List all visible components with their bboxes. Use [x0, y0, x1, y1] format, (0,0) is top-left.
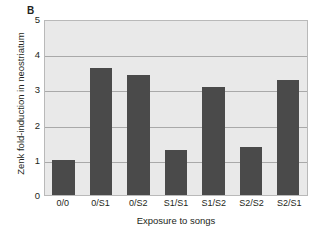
x-tick-label: S1/S1	[157, 198, 195, 209]
bar-slot	[195, 21, 232, 195]
bar	[127, 75, 149, 195]
bar	[90, 68, 112, 195]
x-tick-label: S2/S2	[233, 198, 271, 209]
bar-slot	[82, 21, 119, 195]
figure-panel-b: B Zenk fold-induction in neostriatum 012…	[0, 0, 324, 239]
bar	[52, 160, 74, 195]
y-tick-label: 4	[24, 50, 40, 60]
plot-area	[44, 20, 308, 196]
y-tick-label: 2	[24, 121, 40, 131]
x-axis-title: Exposure to songs	[44, 215, 308, 226]
bar	[202, 87, 224, 195]
bar	[277, 80, 299, 195]
bar-slot	[270, 21, 307, 195]
bar-slot	[232, 21, 269, 195]
bar	[240, 147, 262, 195]
y-tick-label: 1	[24, 156, 40, 166]
x-tick-label: S2/S1	[270, 198, 308, 209]
y-axis-tick-labels: 012345	[24, 20, 40, 196]
x-tick-label: 0/0	[44, 198, 82, 209]
bar	[165, 150, 187, 195]
bar-series	[45, 21, 307, 195]
y-tick-label: 3	[24, 85, 40, 95]
y-tick-label: 5	[24, 15, 40, 25]
x-axis-tick-labels: 0/00/S10/S2S1/S1S1/S2S2/S2S2/S1	[44, 198, 308, 209]
x-tick-label: 0/S2	[119, 198, 157, 209]
y-tick-label: 0	[24, 191, 40, 201]
bar-slot	[45, 21, 82, 195]
x-tick-label: S1/S2	[195, 198, 233, 209]
bar-slot	[120, 21, 157, 195]
x-tick-label: 0/S1	[82, 198, 120, 209]
bar-slot	[157, 21, 194, 195]
